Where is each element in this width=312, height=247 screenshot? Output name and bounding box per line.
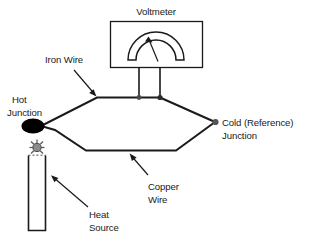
iron-wire-leader: [74, 70, 97, 96]
voltmeter-group: [111, 22, 203, 99]
copper-wire-path: [41, 122, 215, 151]
terminal-dot-left: [137, 95, 142, 100]
voltmeter-box: [111, 22, 203, 68]
heat-source-label-line2: Source: [89, 222, 119, 233]
iron-wire-arrowhead-icon: [89, 89, 96, 96]
heat-glow-core-icon: [33, 143, 41, 151]
hot-junction-dot-icon: [22, 119, 45, 134]
heat-source-label-line1: Heat: [89, 209, 109, 220]
heat-source-group: [29, 140, 46, 231]
hot-junction-label-line2: Junction: [7, 107, 42, 118]
thermocouple-diagram: Voltmeter Iron Wire Hot Junction Cold (R…: [0, 0, 312, 247]
copper-wire-label-line2: Wire: [148, 194, 167, 205]
iron-wire-to-cold-junction: [160, 98, 215, 123]
iron-wire-path: [41, 98, 160, 127]
heat-source-tube-icon: [29, 156, 46, 231]
circuit-wires: [41, 98, 215, 151]
hot-junction-label-line1: Hot: [12, 94, 27, 105]
copper-wire-leader: [130, 154, 148, 175]
cold-junction-label-line2: Junction: [222, 130, 257, 141]
voltmeter-label: Voltmeter: [136, 6, 177, 17]
diagram-canvas: Voltmeter Iron Wire Hot Junction Cold (R…: [0, 0, 312, 247]
iron-wire-label: Iron Wire: [45, 54, 83, 65]
cold-junction-dot-icon: [212, 119, 218, 125]
terminal-dot-right: [157, 95, 162, 100]
cold-junction-label-line1: Cold (Reference): [222, 117, 293, 128]
heat-source-leader: [51, 175, 88, 207]
copper-wire-label-line1: Copper: [148, 181, 180, 192]
